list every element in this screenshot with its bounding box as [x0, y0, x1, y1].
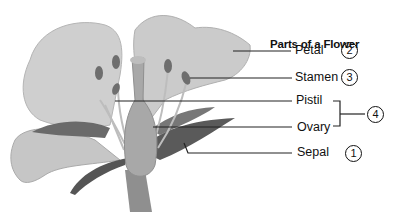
label-petal: Petal [295, 43, 324, 57]
label-pistil: Pistil [296, 93, 322, 107]
label-stamen: Stamen [295, 70, 338, 84]
number-badge-stamen: 3 [341, 69, 358, 86]
right-petal [134, 16, 251, 121]
number-badge-sepal: 1 [345, 145, 362, 162]
flower-illustration [0, 0, 410, 218]
label-sepal: Sepal [297, 145, 329, 159]
number-badge-petal: 2 [341, 42, 358, 59]
label-ovary: Ovary [297, 120, 330, 134]
number-badge-group: 4 [367, 106, 384, 123]
